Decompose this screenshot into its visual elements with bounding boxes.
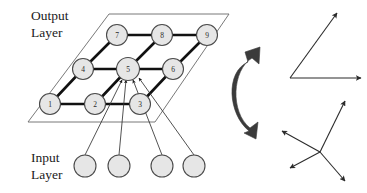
node-label: 5: [126, 65, 130, 74]
output-node-3[interactable]: 3: [130, 94, 151, 115]
figure-root: 1 2 3 4 5 6 7: [0, 0, 367, 193]
vector-arrow: [290, 13, 337, 78]
output-node-6[interactable]: 6: [163, 59, 184, 80]
output-node-7[interactable]: 7: [107, 25, 128, 46]
node-label: 6: [171, 65, 175, 74]
input-node-circle[interactable]: [183, 155, 205, 177]
node-label: 8: [160, 31, 164, 40]
output-node-5-winner[interactable]: 5: [117, 58, 140, 81]
output-node-4[interactable]: 4: [73, 59, 94, 80]
vector-arrow: [290, 152, 320, 168]
weight-vector-fan-bottom: [282, 101, 345, 181]
node-label: 4: [81, 65, 85, 74]
vector-arrow: [320, 152, 345, 181]
weight-vector-fan-top: [290, 13, 361, 78]
vector-arrow: [282, 131, 320, 152]
output-layer-label-line2: Layer: [31, 25, 63, 40]
output-layer-label-line1: Output: [31, 8, 69, 23]
input-node-circle[interactable]: [108, 155, 130, 177]
output-node-2[interactable]: 2: [85, 94, 106, 115]
node-label: 2: [93, 100, 97, 109]
vector-arrow: [320, 101, 345, 152]
output-node-8[interactable]: 8: [152, 25, 173, 46]
rotation-arrow-body: [232, 47, 260, 139]
input-node-circle[interactable]: [74, 155, 96, 177]
input-layer-nodes: [74, 155, 205, 177]
node-label: 9: [205, 31, 209, 40]
output-node-9[interactable]: 9: [197, 25, 218, 46]
som-network-diagram: 1 2 3 4 5 6 7: [0, 0, 367, 193]
input-node-circle[interactable]: [151, 155, 173, 177]
connection-line: [119, 80, 126, 155]
input-layer-label-line2: Layer: [31, 167, 63, 182]
connection-line: [85, 80, 122, 155]
input-layer-label-line1: Input: [31, 150, 60, 165]
node-label: 1: [48, 100, 52, 109]
node-label: 7: [115, 31, 119, 40]
output-node-1[interactable]: 1: [40, 94, 61, 115]
curved-rotation-arrow: [232, 47, 260, 139]
node-label: 3: [138, 100, 142, 109]
